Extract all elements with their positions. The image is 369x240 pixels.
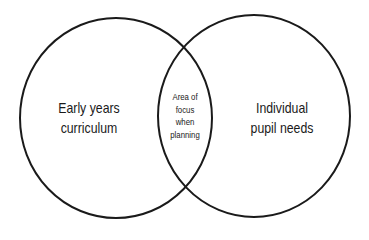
label-individual-pupil-needs: Individual pupil needs xyxy=(251,98,314,138)
label-early-years-curriculum: Early years curriculum xyxy=(58,98,120,138)
label-line: focus xyxy=(170,104,199,117)
label-line: when xyxy=(170,116,199,129)
label-line: Individual xyxy=(251,98,314,118)
label-line: planning xyxy=(170,129,199,142)
label-line: curriculum xyxy=(58,118,120,138)
label-line: Early years xyxy=(58,98,120,118)
label-line: Area of xyxy=(170,91,199,104)
label-area-of-focus: Area of focus when planning xyxy=(170,91,199,141)
label-line: pupil needs xyxy=(251,118,314,138)
